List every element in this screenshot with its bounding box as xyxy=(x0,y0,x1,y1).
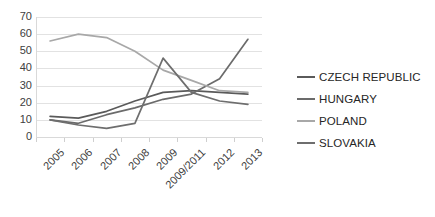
line-chart: 706050403020100 200520062007200820092009… xyxy=(0,0,435,217)
legend-line-icon xyxy=(297,98,315,100)
legend-line-icon xyxy=(297,76,315,78)
legend-label: POLAND xyxy=(319,115,367,127)
legend-label: SLOVAKIA xyxy=(319,137,376,149)
legend-item[interactable]: SLOVAKIA xyxy=(297,132,435,154)
chart-legend: CZECH REPUBLICHUNGARYPOLANDSLOVAKIA xyxy=(297,66,435,154)
x-axis-labels: 200520062007200820092009/201120122013 xyxy=(0,0,300,217)
legend-item[interactable]: HUNGARY xyxy=(297,88,435,110)
legend-line-icon xyxy=(297,142,315,144)
legend-label: HUNGARY xyxy=(319,93,377,105)
legend-item[interactable]: POLAND xyxy=(297,110,435,132)
legend-label: CZECH REPUBLIC xyxy=(319,71,421,83)
legend-item[interactable]: CZECH REPUBLIC xyxy=(297,66,435,88)
legend-line-icon xyxy=(297,120,315,122)
